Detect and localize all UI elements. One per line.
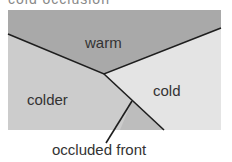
- occlusion-diagram: [0, 0, 232, 162]
- occluded-front-label: occluded front: [52, 141, 146, 158]
- colder-label: colder: [27, 91, 68, 108]
- warm-label: warm: [85, 34, 122, 51]
- cold-label: cold: [153, 82, 181, 99]
